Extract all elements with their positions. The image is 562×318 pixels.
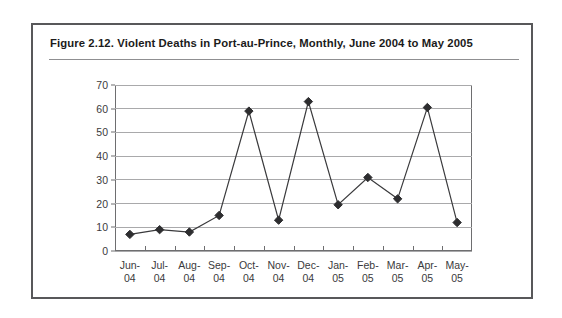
x-tick-label-line-1: 04 (268, 272, 290, 285)
y-tick-label: 50 (96, 126, 108, 138)
data-point-marker (423, 103, 431, 111)
x-tick-label: May-05 (445, 259, 468, 284)
y-tick-label: 70 (96, 79, 108, 91)
x-tick-label-line-0: Sep- (208, 259, 230, 272)
data-point-marker (185, 228, 193, 236)
data-point-marker (126, 230, 134, 238)
y-tick-label: 0 (102, 245, 108, 257)
x-tick-label-line-0: Jun- (120, 259, 140, 272)
data-point-marker (274, 216, 282, 224)
x-tick-label-line-1: 05 (357, 272, 379, 285)
x-tick-label-line-0: Jul- (151, 259, 168, 272)
x-tick-label: Feb-05 (357, 259, 379, 284)
x-tick-label: Apr-05 (417, 259, 437, 284)
data-point-marker (155, 225, 163, 233)
x-tick-label-line-0: Dec- (297, 259, 319, 272)
x-tick-label-line-1: 04 (151, 272, 168, 285)
x-tick-label-line-0: Nov- (268, 259, 290, 272)
x-tick-label: Sep-04 (208, 259, 230, 284)
x-tick-label-line-1: 05 (328, 272, 348, 285)
x-tick-label: Jul-04 (151, 259, 168, 284)
x-tick-label-line-1: 05 (387, 272, 409, 285)
figure-title: Figure 2.12. Violent Deaths in Port-au-P… (50, 37, 473, 49)
y-tick-label: 60 (96, 103, 108, 115)
data-point-marker (453, 218, 461, 226)
data-point-marker (393, 195, 401, 203)
series-polyline (130, 102, 457, 235)
x-tick-label-line-0: Feb- (357, 259, 379, 272)
x-tick-label: Mar-05 (387, 259, 409, 284)
x-tick-label: Oct-04 (239, 259, 259, 284)
x-tick-label: Dec-04 (297, 259, 319, 284)
x-tick-label-line-0: Mar- (387, 259, 409, 272)
x-tick-label: Jan-05 (328, 259, 348, 284)
x-tick-label-line-1: 04 (178, 272, 200, 285)
x-tick-label: Aug-04 (178, 259, 200, 284)
y-tick-label: 20 (96, 198, 108, 210)
figure-panel: Figure 2.12. Violent Deaths in Port-au-P… (31, 23, 533, 299)
x-tick-label-line-1: 04 (120, 272, 140, 285)
data-point-marker (215, 211, 223, 219)
chart-plot-area: 010203040506070 Jun-04Jul-04Aug-04Sep-04… (115, 85, 472, 251)
x-tick-label-line-0: Apr- (417, 259, 437, 272)
title-divider (49, 59, 519, 60)
x-tick-label: Jun-04 (120, 259, 140, 284)
data-series-line (115, 85, 472, 251)
data-point-marker (245, 107, 253, 115)
x-tick-label-line-1: 04 (239, 272, 259, 285)
x-tick-label-line-0: Oct- (239, 259, 259, 272)
x-tick-label-line-1: 04 (297, 272, 319, 285)
x-tick-label-line-0: Aug- (178, 259, 200, 272)
y-tick-label: 10 (96, 221, 108, 233)
y-tick-label: 30 (96, 174, 108, 186)
x-tick-label-line-0: May- (445, 259, 468, 272)
x-tick-label-line-1: 05 (417, 272, 437, 285)
data-point-marker (304, 97, 312, 105)
x-tick-label-line-1: 04 (208, 272, 230, 285)
y-tick-label: 40 (96, 150, 108, 162)
x-tick-label: Nov-04 (268, 259, 290, 284)
x-tick-label-line-1: 05 (445, 272, 468, 285)
x-tick-label-line-0: Jan- (328, 259, 348, 272)
